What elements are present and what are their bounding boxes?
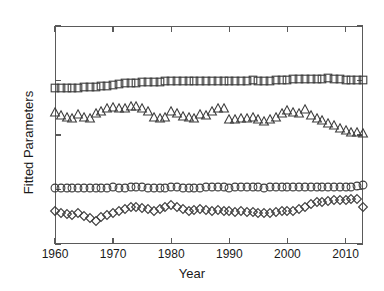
- x-tick-label: 2010: [332, 248, 359, 260]
- x-tick-label: 1990: [216, 248, 243, 260]
- x-axis-label: Year: [0, 266, 384, 281]
- x-tick-label: 1960: [42, 248, 69, 260]
- y-axis-label: Fitted Parameters: [21, 63, 36, 223]
- plot-area: [55, 26, 363, 244]
- x-tick-label: 1980: [158, 248, 185, 260]
- x-tick-label: 1970: [100, 248, 127, 260]
- x-tick-label: 2000: [274, 248, 301, 260]
- chart-figure: Fitted Parameters Year -4048121960197019…: [0, 0, 384, 291]
